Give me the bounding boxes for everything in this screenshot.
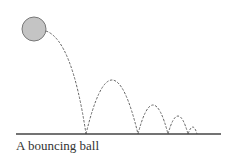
trajectory-arc-2 (138, 105, 168, 134)
ball-trajectory (46, 31, 197, 134)
trajectory-arc-1 (86, 80, 138, 134)
trajectory-arc-4 (188, 127, 197, 134)
trajectory-arc-0 (46, 31, 86, 134)
ball (22, 17, 46, 41)
trajectory-arc-3 (168, 116, 188, 134)
figure-caption: A bouncing ball (16, 138, 99, 154)
